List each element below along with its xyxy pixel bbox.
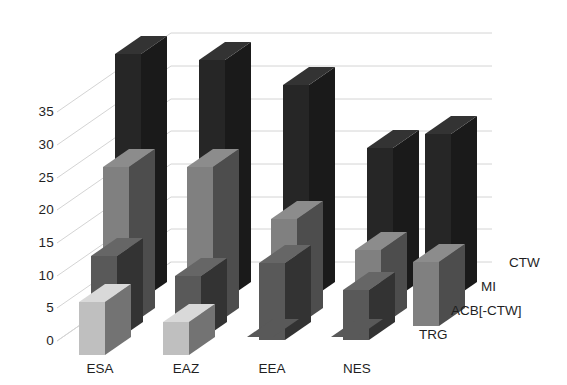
x-tick-eea: EEA <box>258 362 285 376</box>
y-tick-35: 35 <box>20 105 54 119</box>
y-tick-0: 0 <box>20 334 54 348</box>
y-axis: 35 30 25 20 15 10 5 0 <box>12 0 54 385</box>
x-tick-esa: ESA <box>86 362 113 376</box>
bar-eaz-trg <box>163 304 215 355</box>
bar-esa-trg <box>79 284 131 355</box>
y-tick-15: 15 <box>20 236 54 250</box>
z-label-trg: TRG <box>419 328 448 342</box>
y-tick-20: 20 <box>20 203 54 217</box>
z-label-ctw: CTW <box>509 256 540 270</box>
y-tick-5: 5 <box>20 301 54 315</box>
x-tick-nes: NES <box>343 362 371 376</box>
z-label-acb: ACB[-CTW] <box>451 304 522 318</box>
bar-chart-3d: 35 30 25 20 15 10 5 0 ESA EAZ EEA NES CT… <box>0 0 567 385</box>
y-tick-25: 25 <box>20 171 54 185</box>
z-label-mi: MI <box>481 280 496 294</box>
plot-area <box>0 0 567 385</box>
y-tick-30: 30 <box>20 138 54 152</box>
x-tick-eaz: EAZ <box>173 362 199 376</box>
y-tick-10: 10 <box>20 269 54 283</box>
